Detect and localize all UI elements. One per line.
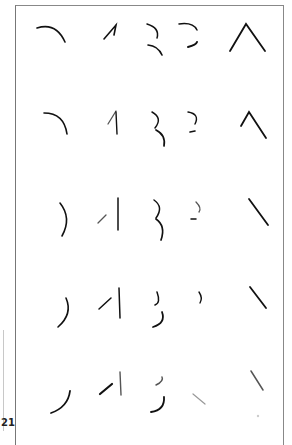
glyph-three: [154, 200, 163, 240]
glyph-backslash: [249, 199, 268, 225]
row-4: [58, 287, 266, 327]
glyph-reversed-c: [191, 202, 200, 219]
glyph-backslash: [250, 287, 266, 308]
glyph-backslash-faint: [193, 394, 205, 404]
glyph-right-paren-small: [199, 292, 201, 303]
glyph-arc: [44, 113, 67, 134]
row-5: [51, 371, 263, 417]
row-3: [60, 198, 268, 240]
glyph-three: [152, 112, 164, 146]
glyph-caret: [241, 112, 266, 138]
glyph-right-paren: [58, 298, 68, 327]
glyph-backslash: [251, 371, 263, 390]
glyph-slash-bar: [99, 288, 120, 318]
glyph-right-paren: [60, 203, 67, 236]
glyph-reversed-c: [179, 24, 197, 47]
glyph-three: [147, 24, 162, 55]
glyph-right-paren: [51, 391, 70, 413]
glyph-three: [153, 292, 163, 327]
glyph-caret: [230, 24, 265, 51]
glyph-one: [104, 25, 116, 39]
row-1: [37, 24, 265, 55]
glyph-arc: [37, 27, 65, 42]
row-2: [44, 111, 266, 146]
page-number: 21: [1, 417, 15, 429]
glyph-slash-bar: [100, 372, 121, 395]
glyph-reversed-c: [188, 112, 196, 132]
glyph-three: [151, 377, 164, 412]
speck: [257, 415, 259, 417]
glyph-one: [108, 111, 117, 134]
glyph-slash-bar: [98, 198, 118, 230]
